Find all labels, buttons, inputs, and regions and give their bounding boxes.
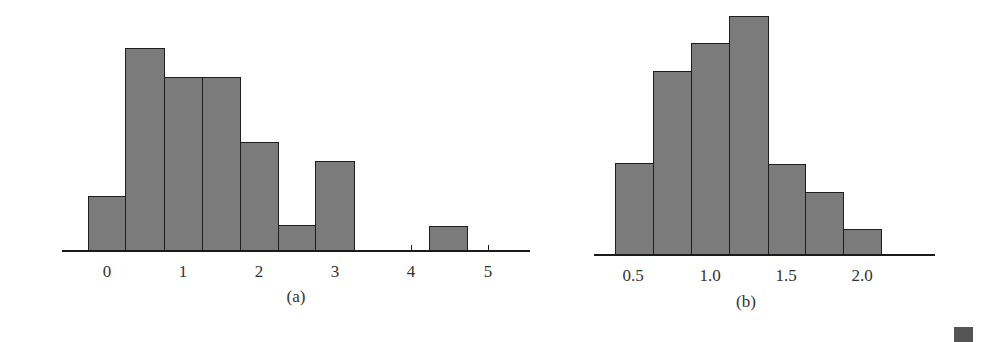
bar-a-5 <box>278 225 316 252</box>
tick-label-b-1: 1.0 <box>699 266 720 286</box>
bar-a-2 <box>164 77 203 252</box>
panel-label-a: (a) <box>287 287 306 307</box>
bar-b-5 <box>805 192 844 255</box>
bar-a-4 <box>240 142 279 252</box>
bar-a-6 <box>315 161 355 252</box>
bar-b-1 <box>653 71 692 255</box>
bar-a-1 <box>125 48 165 252</box>
bar-b-0 <box>615 163 654 255</box>
x-axis-a <box>62 250 530 252</box>
tick-label-b-2: 1.5 <box>775 266 796 286</box>
corner-marker <box>954 327 973 342</box>
tick-label-a-0: 0 <box>103 262 112 282</box>
bar-a-7 <box>429 226 468 252</box>
histogram-figure: 0 1 2 3 4 5 (a) 0.5 1.0 1.5 2.0 (b) <box>0 0 981 342</box>
bar-a-0 <box>88 196 126 252</box>
bar-a-3 <box>202 77 241 252</box>
tick-label-a-5: 5 <box>484 262 493 282</box>
bar-b-3 <box>729 16 769 255</box>
bar-b-6 <box>843 229 882 255</box>
tick-label-a-2: 2 <box>255 262 264 282</box>
tick-label-a-3: 3 <box>331 262 340 282</box>
tick-a-5 <box>488 245 489 251</box>
panel-label-b: (b) <box>736 292 756 312</box>
tick-label-b-0: 0.5 <box>622 266 643 286</box>
tick-a-4 <box>411 245 412 251</box>
tick-label-b-3: 2.0 <box>851 266 872 286</box>
tick-label-a-4: 4 <box>407 262 416 282</box>
bar-b-2 <box>691 43 730 255</box>
bar-b-4 <box>768 164 806 255</box>
x-axis-b <box>594 254 935 256</box>
tick-label-a-1: 1 <box>179 262 188 282</box>
